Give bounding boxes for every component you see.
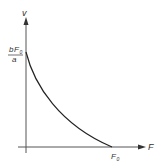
force-velocity-chart: v F b F 0 a F 0 bbox=[0, 0, 161, 168]
y-intercept-denominator: a bbox=[12, 55, 17, 64]
y-axis-arrow-icon bbox=[24, 17, 29, 25]
x-intercept-sub: 0 bbox=[117, 156, 120, 162]
force-velocity-curve bbox=[26, 52, 112, 147]
x-axis-label: F bbox=[148, 142, 154, 152]
y-axis-label: v bbox=[22, 8, 27, 18]
y-intercept-sub: 0 bbox=[20, 49, 23, 55]
x-axis-arrow-icon bbox=[138, 145, 146, 150]
